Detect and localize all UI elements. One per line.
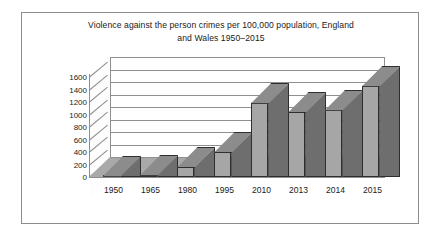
bar-1965 <box>140 155 158 177</box>
x-axis-tick-label: 1965 <box>141 185 160 195</box>
bar-face <box>288 112 306 177</box>
bar-face <box>325 110 343 178</box>
chart-title: Violence against the person crimes per 1… <box>52 19 390 44</box>
y-axis-tick-label: 200 <box>53 160 87 169</box>
bar-2010 <box>251 83 269 177</box>
gridline <box>110 57 385 58</box>
chart-title-line-1: Violence against the person crimes per 1… <box>52 19 390 32</box>
bar-face <box>177 167 195 177</box>
bar-2013 <box>288 92 306 177</box>
bar-1995 <box>214 132 232 177</box>
y-axis-tick-label: 600 <box>53 135 87 144</box>
x-axis-ticks: 19501965198019952010201320142015 <box>60 185 405 201</box>
x-axis-tick-label: 2013 <box>289 185 308 195</box>
bar-2014 <box>325 90 343 178</box>
floor-front-edge <box>89 177 385 178</box>
x-axis-tick-label: 1950 <box>104 185 123 195</box>
y-axis-tick-label: 0 <box>53 173 87 182</box>
gridline <box>110 70 385 71</box>
bar-face <box>251 103 269 177</box>
figure-frame: Violence against the person crimes per 1… <box>21 12 419 224</box>
gridline <box>110 82 385 83</box>
x-axis-tick-label: 2010 <box>252 185 271 195</box>
bar-1980 <box>177 147 195 177</box>
x-axis-tick-label: 1980 <box>178 185 197 195</box>
y-axis-tick-label: 1200 <box>53 98 87 107</box>
plot-area: 02004006008001000120014001600 1950196519… <box>60 57 405 197</box>
y-axis-tick-label: 1000 <box>53 110 87 119</box>
bar-2015 <box>362 66 380 177</box>
y-axis-tick-label: 1400 <box>53 85 87 94</box>
bar-1950 <box>103 156 121 178</box>
y-axis-tick-label: 1600 <box>53 73 87 82</box>
y-axis-tick-label: 800 <box>53 123 87 132</box>
bar-face <box>362 86 380 177</box>
y-axis-back-line <box>110 57 111 158</box>
bar-face <box>214 152 232 177</box>
y-axis-tick-label: 400 <box>53 148 87 157</box>
x-axis-tick-label: 1995 <box>215 185 234 195</box>
x-axis-tick-label: 2014 <box>326 185 345 195</box>
chart-figure: Violence against the person crimes per 1… <box>0 0 440 238</box>
y-axis-line <box>89 74 90 178</box>
chart-title-line-2: and Wales 1950–2015 <box>52 32 390 45</box>
x-axis-tick-label: 2015 <box>363 185 382 195</box>
